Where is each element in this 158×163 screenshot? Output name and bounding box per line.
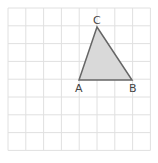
vertex-label-c: C [93, 14, 101, 27]
triangle-abc [79, 27, 132, 80]
grid-diagram: A B C [0, 0, 158, 163]
vertex-label-a: A [75, 82, 83, 95]
vertex-label-b: B [129, 82, 137, 95]
